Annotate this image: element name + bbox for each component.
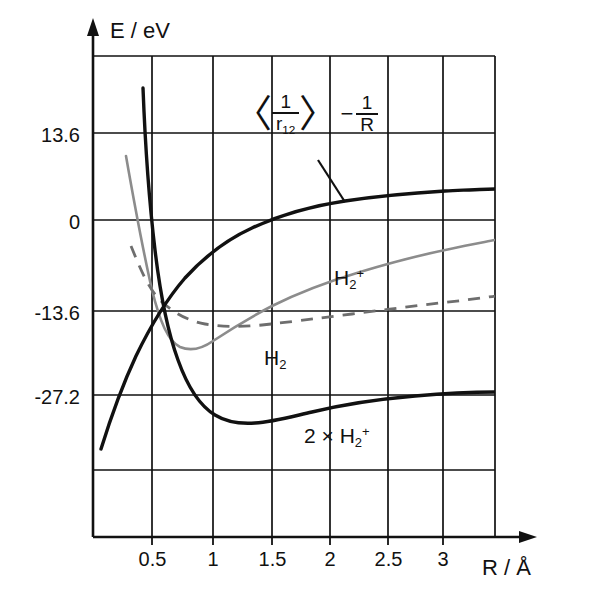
fraction-one-over-R: 1 R [356, 93, 378, 135]
minus-sign: − [337, 101, 356, 127]
y-axis-title: E / eV [110, 18, 170, 44]
fraction-numerator-2: 1 [356, 93, 378, 113]
x-tick-label-2-5: 2.5 [366, 548, 411, 571]
twoH2plus-base: H [340, 424, 355, 447]
x-tick-label-3: 3 [428, 548, 458, 571]
two-times-prefix: 2 × [304, 424, 340, 447]
figure-root: 13.6 0 -13.6 -27.2 0.5 1 1.5 2 2.5 3 E /… [0, 0, 597, 596]
angle-bracket-close-icon: 〉 [299, 98, 337, 130]
y-tick-label-minus-13-6: -13.6 [8, 302, 80, 325]
curve-h2-plus [131, 246, 495, 326]
h2plus-sup: + [356, 266, 364, 281]
y-tick-label-13-6: 13.6 [18, 124, 80, 147]
x-tick-label-1-5: 1.5 [250, 548, 295, 571]
x-axis-title: R / Å [482, 555, 531, 581]
curve-label-h2-plus: H2+ [334, 266, 364, 292]
right-arrow-icon [519, 531, 537, 543]
angle-bracket-open-icon: 〈 [234, 98, 272, 130]
h2plus-base: H [334, 266, 349, 289]
h2-sub: 2 [279, 357, 286, 372]
x-tick-label-0-5: 0.5 [130, 548, 175, 571]
plot-area [0, 0, 597, 596]
y-axis [87, 18, 99, 537]
x-tick-label-1: 1 [198, 548, 228, 571]
annotation-coulomb-formula: 〈 1 r12 〉 − 1 R [234, 92, 378, 136]
h2-base: H [264, 346, 279, 369]
fraction-denominator-r12: r12 [272, 112, 299, 136]
formula-leader-line [318, 160, 345, 202]
x-tick-label-2: 2 [315, 548, 345, 571]
up-arrow-icon [87, 18, 99, 36]
fraction-denominator-R: R [356, 113, 378, 135]
twoH2plus-sup: + [362, 424, 370, 439]
x-axis [93, 531, 537, 543]
y-tick-label-0: 0 [18, 211, 80, 234]
curve-label-2x-h2-plus: 2 × H2+ [304, 424, 370, 450]
curve-label-h2: H2 [264, 346, 286, 372]
fraction-numerator-1: 1 [272, 92, 299, 112]
fraction-one-over-r12: 1 r12 [272, 92, 299, 136]
twoH2plus-sub: 2 [355, 435, 362, 450]
y-tick-label-minus-27-2: -27.2 [8, 386, 80, 409]
